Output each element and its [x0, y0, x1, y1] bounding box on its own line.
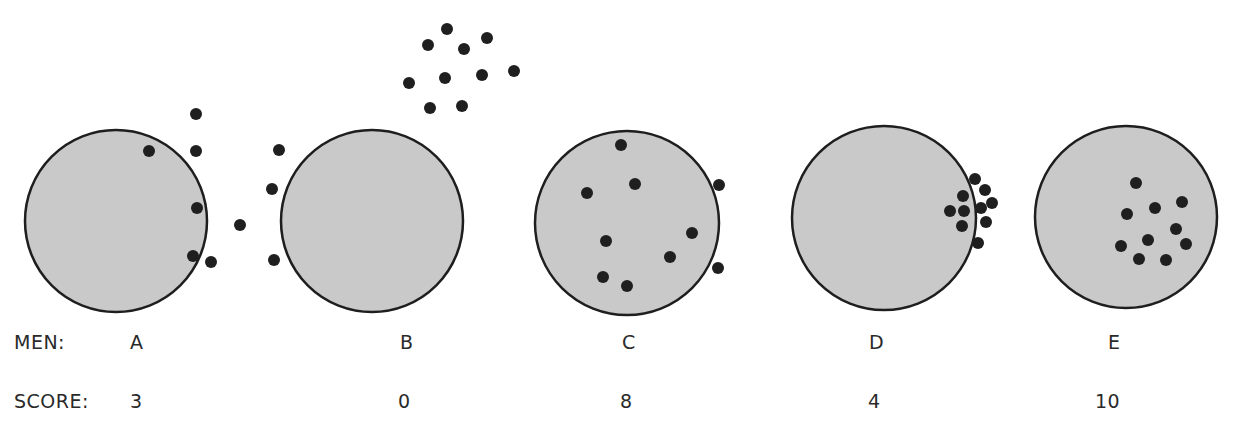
shot-dot	[190, 108, 202, 120]
shot-dot	[1170, 223, 1182, 235]
shot-dot	[980, 216, 992, 228]
shot-dot	[1176, 196, 1188, 208]
man-label-c: C	[622, 331, 636, 353]
shot-dot	[956, 220, 968, 232]
man-label-a: A	[130, 331, 144, 353]
shot-dot	[597, 271, 609, 283]
shot-dot	[713, 179, 725, 191]
shot-dot	[1133, 253, 1145, 265]
shot-dot	[266, 183, 278, 195]
target-a	[25, 108, 246, 312]
shot-dot	[944, 205, 956, 217]
shot-dot	[986, 197, 998, 209]
shot-dot	[424, 102, 436, 114]
shot-dot	[1180, 238, 1192, 250]
shot-dot	[664, 251, 676, 263]
shot-dot	[957, 190, 969, 202]
score-value-b: 0	[398, 390, 411, 412]
score-value-c: 8	[620, 390, 633, 412]
shot-dot	[273, 144, 285, 156]
target-b	[266, 23, 520, 312]
shot-dot	[581, 187, 593, 199]
shot-dot	[1121, 208, 1133, 220]
shot-dot	[191, 202, 203, 214]
shot-dot	[458, 43, 470, 55]
man-label-d: D	[869, 331, 884, 353]
score-value-a: 3	[130, 390, 143, 412]
shot-dot	[1149, 202, 1161, 214]
target-d	[792, 126, 998, 310]
shot-dot	[958, 205, 970, 217]
score-row-label: SCORE:	[14, 390, 89, 412]
shot-dot	[686, 227, 698, 239]
score-value-e: 10	[1095, 390, 1120, 412]
shot-dot	[143, 145, 155, 157]
shot-dot	[456, 100, 468, 112]
shot-dot	[234, 219, 246, 231]
score-value-d: 4	[868, 390, 881, 412]
target-e	[1035, 126, 1217, 308]
men-row-label: MEN:	[14, 331, 65, 353]
shot-dot	[422, 39, 434, 51]
shot-dot	[979, 184, 991, 196]
shot-dot	[190, 145, 202, 157]
shot-dot	[969, 173, 981, 185]
shot-dot	[712, 262, 724, 274]
shot-dot	[508, 65, 520, 77]
shot-dot	[187, 250, 199, 262]
target-diagram	[0, 0, 1235, 432]
shot-dot	[1115, 240, 1127, 252]
shot-dot	[600, 235, 612, 247]
shot-dot	[972, 237, 984, 249]
target-circle	[792, 126, 976, 310]
shot-dot	[476, 69, 488, 81]
shot-dot	[975, 202, 987, 214]
shot-dot	[1142, 234, 1154, 246]
shot-dot	[403, 77, 415, 89]
shot-dot	[1160, 254, 1172, 266]
shot-dot	[439, 72, 451, 84]
shot-dot	[1130, 177, 1142, 189]
man-label-b: B	[400, 331, 414, 353]
target-circle	[25, 130, 207, 312]
target-c	[535, 131, 725, 315]
target-circle	[281, 130, 463, 312]
shot-dot	[615, 139, 627, 151]
shot-dot	[441, 23, 453, 35]
man-label-e: E	[1108, 331, 1121, 353]
shot-dot	[205, 256, 217, 268]
shot-dot	[621, 280, 633, 292]
shot-dot	[481, 32, 493, 44]
shot-dot	[268, 254, 280, 266]
shot-dot	[629, 178, 641, 190]
